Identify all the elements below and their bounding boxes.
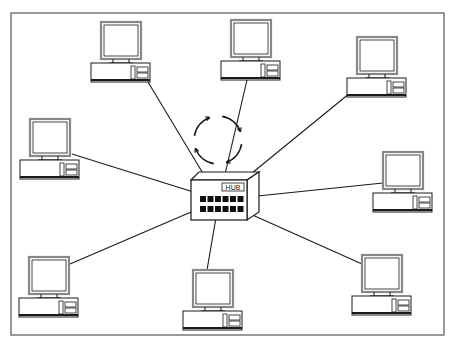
hub-port [208,196,214,202]
hub-port [238,206,244,212]
hub-port [238,196,244,202]
hub-port [215,196,221,202]
network-diagram: HUB [0,0,454,346]
computer-pc-bottom-left [19,257,78,317]
hub-port [215,206,221,212]
hub-port [200,206,206,212]
computer-pc-bottom-center [183,270,242,330]
computer-pc-left [20,119,79,179]
hub-side-face [247,172,259,220]
computer-pc-top-center [221,20,280,80]
network-hub: HUB [191,172,259,220]
computer-pc-right [373,152,432,212]
hub-port [208,206,214,212]
computer-pc-top-right [347,37,406,97]
hub-port [230,196,236,202]
computer-pc-top-left [91,22,150,82]
hub-port [223,196,229,202]
hub-port [200,196,206,202]
circular-arrows-icon [194,116,241,163]
hub-port [223,206,229,212]
hub-port [230,206,236,212]
diagram-canvas: HUB [0,0,454,346]
hub-label: HUB [226,184,241,191]
